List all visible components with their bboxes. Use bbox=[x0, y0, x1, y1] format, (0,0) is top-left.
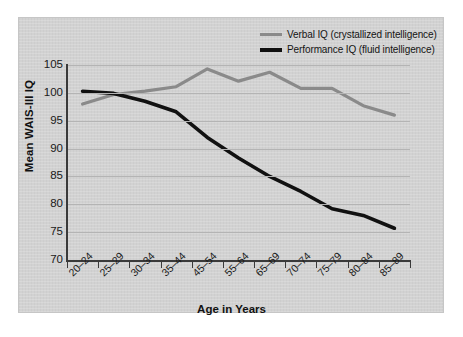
legend-swatch-verbal-icon bbox=[260, 33, 282, 36]
y-tick-label: 95 bbox=[35, 115, 63, 127]
y-tick-label: 105 bbox=[35, 59, 63, 71]
plot-area bbox=[67, 65, 410, 260]
x-tick-mark bbox=[410, 262, 411, 268]
gridline bbox=[67, 204, 410, 205]
y-tick-label: 85 bbox=[35, 170, 63, 182]
gridline bbox=[67, 149, 410, 150]
y-axis-title: Mean WAIS-III IQ bbox=[23, 61, 35, 191]
y-tick-label: 90 bbox=[35, 143, 63, 155]
legend-label-verbal: Verbal IQ (crystallized intelligence) bbox=[287, 29, 437, 40]
y-tick-label: 100 bbox=[35, 87, 63, 99]
series-lines bbox=[67, 65, 410, 260]
legend-item-performance: Performance IQ (fluid intelligence) bbox=[260, 43, 440, 56]
gridline bbox=[67, 232, 410, 233]
gridline bbox=[67, 176, 410, 177]
legend-swatch-performance-icon bbox=[260, 48, 282, 52]
y-axis-line bbox=[66, 64, 68, 262]
chart-legend: Verbal IQ (crystallized intelligence) Pe… bbox=[260, 28, 440, 58]
chart-figure: 707580859095100105 Mean WAIS-III IQ 20–2… bbox=[0, 0, 463, 337]
legend-item-verbal: Verbal IQ (crystallized intelligence) bbox=[260, 28, 440, 41]
y-tick-label: 80 bbox=[35, 198, 63, 210]
legend-label-performance: Performance IQ (fluid intelligence) bbox=[287, 44, 435, 55]
y-tick-label: 70 bbox=[35, 254, 63, 266]
y-tick-label: 75 bbox=[35, 226, 63, 238]
gridline bbox=[67, 121, 410, 122]
line-performance-iq bbox=[83, 91, 395, 228]
x-axis-title: Age in Years bbox=[0, 303, 463, 315]
gridline bbox=[67, 65, 410, 66]
gridline bbox=[67, 93, 410, 94]
